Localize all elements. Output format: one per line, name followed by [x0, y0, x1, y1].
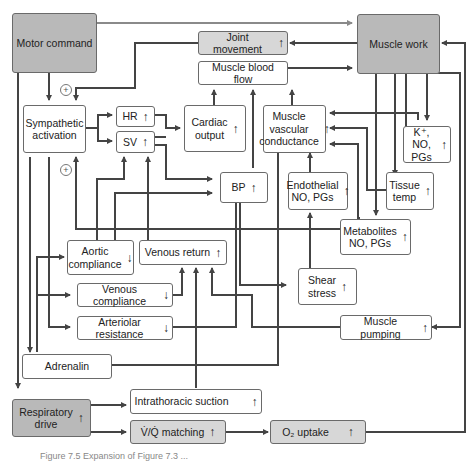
box-vq-matching: V̇/Q̇ matching ↑ [130, 420, 226, 444]
box-joint-movement: Joint movement ↑ [198, 31, 288, 55]
venous-compliance-label: Venous compliance [81, 283, 158, 308]
box-muscle-pumping: Muscle pumping ↑ [340, 315, 432, 340]
muscle-blood-flow-label: Muscle blood flow [202, 61, 284, 86]
box-shear-stress: Shear stress ↑ [298, 268, 357, 305]
decrease-arrow-icon: ↓ [163, 289, 169, 301]
aortic-compliance-label: Aortic compliance [68, 245, 121, 270]
box-venous-compliance: Venous compliance ↓ [77, 283, 173, 307]
box-adrenalin: Adrenalin [22, 354, 112, 379]
increase-arrow-icon: ↑ [233, 123, 239, 135]
figure-caption: Figure 7.5 Expansion of Figure 7.3 ... [40, 451, 188, 461]
box-endothelial-no-pgs: Endothelial NO, PGs ↑ [288, 172, 348, 210]
respiratory-drive-label: Respiratory drive [19, 406, 73, 431]
box-k-no-pgs: K⁺, NO, PGs ↑ [403, 126, 451, 163]
o2-uptake-label: O₂ uptake [282, 426, 329, 439]
increase-arrow-icon: ↑ [402, 231, 408, 243]
tissue-temp-label: Tissue temp [389, 179, 420, 204]
joint-movement-label: Joint movement [202, 31, 273, 56]
increase-arrow-icon: ↑ [251, 396, 257, 408]
box-sympathetic-activation: Sympathetic activation [23, 105, 86, 153]
box-hr: HR ↑ [116, 106, 155, 127]
decrease-arrow-icon: ↓ [127, 252, 133, 264]
increase-arrow-icon: ↑ [78, 412, 84, 424]
increase-arrow-icon: ↑ [341, 281, 347, 293]
increase-arrow-icon: ↑ [324, 123, 330, 135]
box-bp: BP ↑ [220, 172, 268, 203]
adrenalin-label: Adrenalin [45, 360, 89, 373]
cardiac-output-label: Cardiac output [191, 116, 227, 141]
arteriolar-resistance-label: Arteriolar resistance [81, 316, 158, 341]
box-intrathoracic-suction: Intrathoracic suction ↑ [130, 389, 262, 414]
box-muscle-blood-flow: Muscle blood flow [198, 61, 288, 85]
box-respiratory-drive: Respiratory drive ↑ [12, 399, 91, 437]
increase-arrow-icon: ↑ [143, 111, 149, 123]
box-muscle-vascular-conductance: Muscle vascular conductance ↑ [263, 105, 326, 153]
increase-arrow-icon: ↑ [215, 247, 221, 259]
box-venous-return: Venous return ↑ [139, 240, 227, 265]
box-muscle-work: Muscle work [357, 14, 440, 74]
box-tissue-temp: Tissue temp ↑ [386, 172, 434, 210]
box-sv: SV ↑ [116, 131, 155, 153]
bp-label: BP [231, 181, 245, 194]
plus-sign-icon: + [60, 84, 72, 96]
plus-sign-icon: + [60, 164, 72, 176]
increase-arrow-icon: ↑ [441, 139, 447, 151]
muscle-vascular-conductance-label: Muscle vascular conductance [259, 110, 319, 148]
muscle-pumping-label: Muscle pumping [344, 315, 417, 340]
venous-return-label: Venous return [145, 246, 210, 259]
box-cardiac-output: Cardiac output ↑ [184, 105, 246, 152]
hr-label: HR [122, 110, 137, 123]
increase-arrow-icon: ↑ [422, 322, 428, 334]
shear-stress-label: Shear stress [308, 274, 336, 299]
box-o2-uptake: O₂ uptake ↑ [270, 420, 366, 444]
intrathoracic-suction-label: Intrathoracic suction [135, 395, 229, 408]
box-motor-command: Motor command [12, 13, 97, 73]
motor-command-label: Motor command [17, 37, 93, 50]
vq-matching-label: V̇/Q̇ matching [141, 426, 205, 439]
muscle-work-label: Muscle work [369, 38, 427, 51]
increase-arrow-icon: ↑ [209, 426, 215, 438]
endothelial-no-pgs-label: Endothelial NO, PGs [287, 179, 339, 204]
increase-arrow-icon: ↑ [348, 426, 354, 438]
increase-arrow-icon: ↑ [142, 136, 148, 148]
sympathetic-activation-label: Sympathetic activation [26, 117, 84, 142]
increase-arrow-icon: ↑ [251, 182, 257, 194]
increase-arrow-icon: ↑ [343, 185, 349, 197]
increase-arrow-icon: ↑ [425, 185, 431, 197]
sv-label: SV [123, 136, 137, 149]
k-no-pgs-label: K⁺, NO, PGs [407, 126, 436, 164]
box-aortic-compliance: Aortic compliance ↓ [67, 240, 134, 275]
metabolites-label: Metabolites NO, PGs [343, 225, 397, 250]
box-arteriolar-resistance: Arteriolar resistance ↓ [77, 316, 173, 340]
increase-arrow-icon: ↑ [278, 37, 284, 49]
decrease-arrow-icon: ↓ [163, 322, 169, 334]
box-metabolites: Metabolites NO, PGs ↑ [340, 219, 411, 255]
